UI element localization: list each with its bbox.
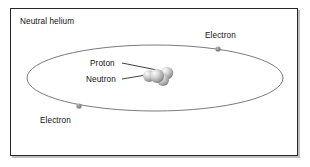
- nucleus-particle-proton-front-left: [150, 69, 164, 83]
- neutron-leader-line: [122, 75, 146, 79]
- figure-root: Neutral helium Electron Electron Proton …: [0, 0, 310, 167]
- electron-top-right-dot: [215, 46, 220, 51]
- electron-bottom-label: Electron: [40, 117, 71, 125]
- nucleus-cluster: [143, 67, 173, 86]
- electron-bottom-left-dot: [76, 103, 81, 108]
- proton-label: Proton: [90, 60, 115, 68]
- figure-title: Neutral helium: [20, 18, 74, 26]
- electron-top-label: Electron: [205, 32, 236, 40]
- neutron-label: Neutron: [86, 76, 116, 84]
